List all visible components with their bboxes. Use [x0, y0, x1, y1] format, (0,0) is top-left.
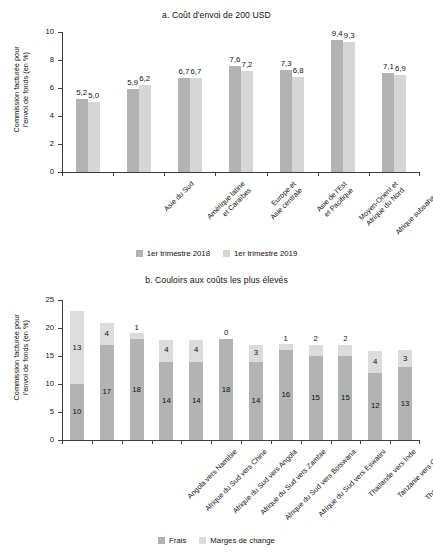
chart-a-legend: 1er trimestre 2018 1er trimestre 2019 [0, 249, 433, 258]
chart-b-y-tick-label: 10 [36, 379, 54, 388]
chart-b-x-tick [152, 440, 153, 444]
chart-a-y-axis-label: Commission facturée pour l'envoi de fond… [12, 29, 31, 149]
chart-b-bar-segment-marges [279, 344, 293, 350]
chart-a-bar [280, 70, 292, 172]
chart-b-y-tick [58, 356, 62, 357]
legend-item-2019: 1er trimestre 2019 [223, 249, 297, 258]
legend-item-marges: Marges de change [199, 536, 275, 545]
chart-a-y-tick-label: 6 [36, 83, 54, 92]
chart-b-x-tick [181, 440, 182, 444]
chart-a-y-tick-label: 8 [36, 55, 54, 64]
chart-a-bar [292, 77, 304, 172]
chart-a-y-axis [62, 32, 63, 173]
chart-b-segment-value-label: 4 [182, 345, 210, 354]
chart-b-x-tick [301, 440, 302, 444]
chart-b-segment-value-label: 18 [123, 385, 151, 394]
chart-b-segment-value-label: 14 [182, 396, 210, 405]
legend-swatch-marges [199, 537, 206, 544]
chart-b-x-tick [62, 440, 63, 444]
chart-b-y-axis [62, 300, 63, 441]
chart-a-bar [139, 85, 151, 172]
legend-item-frais: Frais [158, 536, 186, 545]
chart-b-y-tick [58, 412, 62, 413]
chart-b-x-tick [122, 440, 123, 444]
chart-a-x-tick [215, 172, 216, 176]
chart-b-segment-value-label: 4 [93, 329, 121, 338]
chart-a-bar [241, 71, 253, 172]
chart-a-bar [343, 42, 355, 172]
legend-label-marges: Marges de change [210, 536, 275, 545]
chart-b-segment-value-label: 4 [152, 345, 180, 354]
legend-swatch-frais [158, 537, 165, 544]
chart-a-x-axis [62, 172, 420, 173]
chart-a-bar-value-label: 9,3 [337, 31, 361, 40]
chart-b-legend: Frais Marges de change [0, 536, 433, 545]
chart-b-x-tick [271, 440, 272, 444]
chart-a-x-tick [164, 172, 165, 176]
chart-a-bar [331, 40, 343, 172]
chart-panel-a: a. Coût d'envoi de 200 USD Commission fa… [0, 0, 433, 270]
chart-b-segment-value-label: 15 [331, 393, 359, 402]
chart-a-y-tick-label: 0 [36, 167, 54, 176]
chart-b-plot-area: 05101520251013Angola vers Namibie174Afri… [62, 300, 420, 440]
chart-a-bar [190, 78, 202, 172]
chart-b-segment-value-label: 17 [93, 387, 121, 396]
chart-a-y-tick-label: 10 [36, 27, 54, 36]
legend-item-2018: 1er trimestre 2018 [136, 249, 210, 258]
chart-b-segment-value-label: 13 [63, 343, 91, 352]
chart-a-bar-value-label: 6,8 [286, 66, 310, 75]
legend-swatch-2019 [223, 250, 230, 257]
chart-a-bar-value-label: 6,7 [184, 67, 208, 76]
chart-a-bar [178, 78, 190, 172]
chart-b-segment-value-label: 14 [152, 396, 180, 405]
chart-b-y-tick-label: 20 [36, 323, 54, 332]
chart-a-y-tick [58, 88, 62, 89]
legend-swatch-2018 [136, 250, 143, 257]
chart-b-y-tick [58, 384, 62, 385]
chart-a-bar-value-label: 5,0 [82, 91, 106, 100]
chart-b-y-tick-label: 25 [36, 295, 54, 304]
chart-a-y-tick [58, 60, 62, 61]
chart-a-bar [127, 89, 139, 172]
chart-b-segment-value-label: 0 [212, 328, 240, 337]
chart-a-x-tick [113, 172, 114, 176]
chart-b-x-tick [390, 440, 391, 444]
chart-b-x-tick [331, 440, 332, 444]
chart-b-y-tick-label: 0 [36, 435, 54, 444]
chart-a-bar [229, 66, 241, 172]
chart-b-x-tick [419, 440, 420, 444]
chart-b-y-axis-label: Commission facturée pour l'envoi de fond… [12, 297, 31, 417]
chart-b-segment-value-label: 4 [361, 357, 389, 366]
chart-b-segment-value-label: 15 [302, 393, 330, 402]
chart-a-title: a. Coût d'envoi de 200 USD [0, 10, 433, 20]
chart-b-segment-value-label: 3 [391, 354, 419, 363]
chart-b-segment-value-label: 16 [272, 390, 300, 399]
chart-a-y-tick [58, 32, 62, 33]
chart-b-segment-value-label: 10 [63, 407, 91, 416]
chart-b-bar-segment-marges [309, 345, 323, 356]
chart-a-bar-value-label: 6,9 [388, 64, 412, 73]
chart-b-bar-segment-marges [338, 345, 352, 356]
chart-b-y-tick-label: 5 [36, 407, 54, 416]
chart-b-x-tick [92, 440, 93, 444]
chart-b-segment-value-label: 12 [361, 401, 389, 410]
chart-b-segment-value-label: 1 [272, 334, 300, 343]
chart-a-x-tick [267, 172, 268, 176]
chart-b-segment-value-label: 3 [242, 348, 270, 357]
chart-a-x-tick [369, 172, 370, 176]
legend-label-2019: 1er trimestre 2019 [234, 249, 297, 258]
chart-a-x-tick [62, 172, 63, 176]
chart-a-y-tick-label: 4 [36, 111, 54, 120]
chart-b-x-tick [241, 440, 242, 444]
chart-b-segment-value-label: 2 [302, 334, 330, 343]
chart-b-segment-value-label: 13 [391, 399, 419, 408]
legend-label-frais: Frais [169, 536, 186, 545]
chart-a-bar [394, 75, 406, 172]
chart-b-x-tick [360, 440, 361, 444]
chart-b-y-tick [58, 300, 62, 301]
chart-a-x-tick [419, 172, 420, 176]
chart-a-bar-value-label: 7,2 [235, 60, 259, 69]
chart-b-y-tick-label: 15 [36, 351, 54, 360]
chart-b-segment-value-label: 2 [331, 334, 359, 343]
chart-b-title: b. Couloirs aux coûts les plus élevés [0, 275, 433, 285]
